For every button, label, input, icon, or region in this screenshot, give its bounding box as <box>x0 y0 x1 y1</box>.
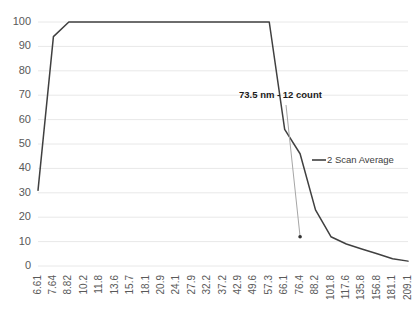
y-tick-40: 40 <box>19 161 31 173</box>
x-tick-49.6: 49.6 <box>247 275 258 295</box>
x-tick-117.6: 117.6 <box>340 275 351 300</box>
y-tick-10: 10 <box>19 235 31 247</box>
x-tick-101.8: 101.8 <box>325 275 336 300</box>
x-tick-18.1: 18.1 <box>140 275 151 295</box>
y-tick-100: 100 <box>13 15 31 27</box>
x-tick-8.82: 8.82 <box>62 275 73 295</box>
x-tick-88.2: 88.2 <box>309 275 320 295</box>
annotation-label: 73.5 nm - 12 count <box>239 89 323 100</box>
x-tick-37.2: 37.2 <box>217 275 228 295</box>
legend-label-2-scan-average: 2 Scan Average <box>327 154 394 165</box>
x-tick-13.6: 13.6 <box>109 275 120 295</box>
x-tick-156.8: 156.8 <box>371 275 382 300</box>
x-tick-181.1: 181.1 <box>386 275 397 300</box>
y-tick-0: 0 <box>25 259 31 271</box>
y-tick-20: 20 <box>19 210 31 222</box>
x-tick-76.4: 76.4 <box>294 275 305 295</box>
y-tick-70: 70 <box>19 88 31 100</box>
x-tick-6.61: 6.61 <box>32 275 43 295</box>
x-tick-57.3: 57.3 <box>263 275 274 295</box>
x-tick-66.1: 66.1 <box>278 275 289 295</box>
x-tick-27.9: 27.9 <box>186 275 197 295</box>
line-chart: 0102030405060708090100 6.617.648.8210.21… <box>0 0 417 317</box>
x-tick-32.2: 32.2 <box>201 275 212 295</box>
x-tick-7.64: 7.64 <box>47 275 58 295</box>
x-tick-135.8: 135.8 <box>355 275 366 300</box>
y-tick-80: 80 <box>19 64 31 76</box>
x-tick-11.8: 11.8 <box>93 275 104 294</box>
x-tick-15.7: 15.7 <box>124 275 135 295</box>
x-tick-42.9: 42.9 <box>232 275 243 295</box>
chart-container: 0102030405060708090100 6.617.648.8210.21… <box>0 0 417 317</box>
x-tick-20.9: 20.9 <box>155 275 166 295</box>
x-tick-24.1: 24.1 <box>170 275 181 295</box>
y-tick-90: 90 <box>19 39 31 51</box>
x-tick-10.2: 10.2 <box>78 275 89 295</box>
y-tick-60: 60 <box>19 113 31 125</box>
y-tick-50: 50 <box>19 137 31 149</box>
x-tick-209.1: 209.1 <box>402 275 413 300</box>
annotation-marker-dot <box>298 235 302 239</box>
y-tick-30: 30 <box>19 186 31 198</box>
